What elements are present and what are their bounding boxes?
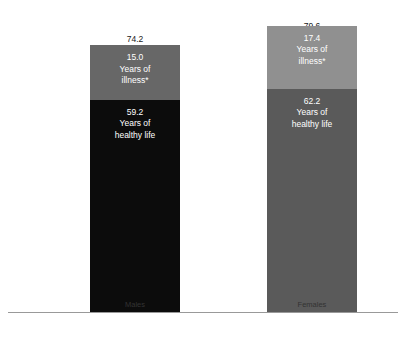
bar-segment-label-females-healthy: 62.2 Years of healthy life (292, 89, 333, 130)
segment-value: 59.2 (115, 107, 156, 118)
axis-label-females: Females (242, 300, 382, 309)
bar-segment-females-illness[interactable]: 17.4 Years of illness* (267, 26, 357, 89)
bar-segment-females-healthy[interactable]: 62.2 Years of healthy life (267, 89, 357, 313)
segment-value: 62.2 (292, 96, 333, 107)
segment-unit-line1: Years of (120, 64, 151, 75)
segment-value: 17.4 (297, 33, 328, 44)
bar-segment-label-males-illness: 15.0 Years of illness* (120, 45, 151, 86)
segment-unit-line1: Years of (297, 44, 328, 55)
axis-label-males: Males (65, 300, 205, 309)
bar-stack-females[interactable]: 17.4 Years of illness* 62.2 Years of hea… (267, 26, 357, 313)
bar-segment-males-healthy[interactable]: 59.2 Years of healthy life (90, 100, 180, 313)
bar-stack-males[interactable]: 15.0 Years of illness* 59.2 Years of hea… (90, 45, 180, 313)
segment-value: 15.0 (120, 52, 151, 63)
bar-segment-males-illness[interactable]: 15.0 Years of illness* (90, 45, 180, 99)
axis-baseline (8, 312, 398, 313)
segment-unit-line1: Years of (115, 118, 156, 129)
bar-segment-label-females-illness: 17.4 Years of illness* (297, 26, 328, 67)
segment-unit-line2: illness* (297, 56, 328, 67)
stacked-bar-chart: 74.2 Years of life 15.0 Years of illness… (0, 0, 406, 338)
bar-total-value-males: 74.2 (60, 34, 210, 45)
segment-unit-line2: healthy life (115, 130, 156, 141)
bar-segment-label-males-healthy: 59.2 Years of healthy life (115, 100, 156, 141)
segment-unit-line2: illness* (120, 75, 151, 86)
segment-unit-line1: Years of (292, 107, 333, 118)
segment-unit-line2: healthy life (292, 119, 333, 130)
